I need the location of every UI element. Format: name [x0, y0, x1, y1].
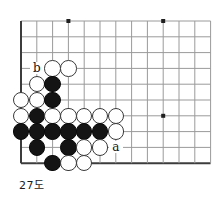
white-stone — [108, 123, 124, 139]
diagram-caption: 27도 — [19, 176, 45, 192]
point-label-a: a — [109, 141, 123, 153]
go-diagram: ba 27도 — [0, 0, 219, 199]
white-stone — [76, 139, 92, 155]
white-stone — [60, 108, 76, 124]
white-stone — [92, 139, 108, 155]
black-stone — [29, 123, 45, 139]
black-stone — [76, 123, 92, 139]
white-stone — [92, 108, 108, 124]
white-stone — [29, 92, 45, 108]
black-stone — [29, 139, 45, 155]
white-stone — [44, 60, 60, 76]
star-point — [161, 19, 165, 23]
star-point — [66, 19, 70, 23]
white-stone — [60, 155, 76, 171]
black-stone — [29, 108, 45, 124]
black-stone — [44, 123, 60, 139]
white-stone — [108, 108, 124, 124]
star-point — [161, 114, 165, 118]
black-stone — [44, 92, 60, 108]
white-stone — [44, 108, 60, 124]
white-stone — [60, 60, 76, 76]
black-stone — [60, 123, 76, 139]
black-stone — [44, 76, 60, 92]
white-stone — [13, 108, 29, 124]
black-stone — [92, 123, 108, 139]
point-label-b: b — [30, 62, 44, 74]
black-stone — [60, 139, 76, 155]
black-stone — [44, 155, 60, 171]
black-stone — [13, 123, 29, 139]
